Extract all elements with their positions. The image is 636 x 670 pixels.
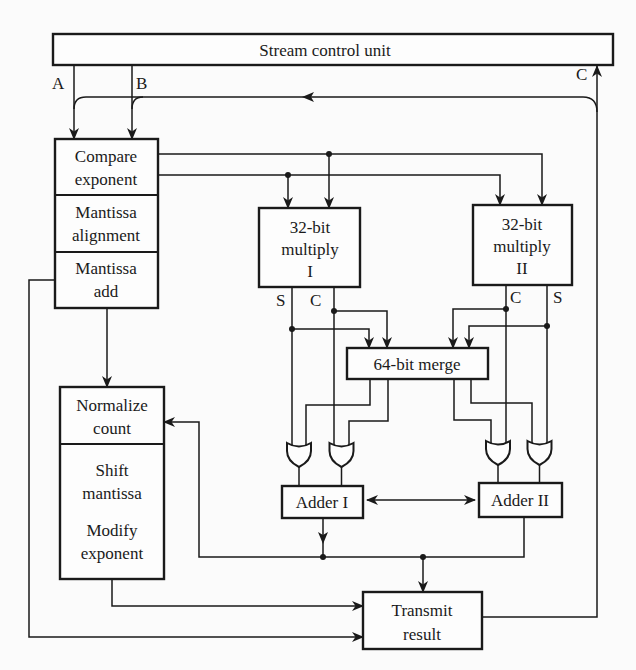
merge-output-wires xyxy=(306,379,532,446)
compare-stage-3-line2: add xyxy=(94,282,119,301)
multiplier-2-line2: multiply xyxy=(493,237,551,256)
signal-b-label: B xyxy=(136,74,147,93)
or-gate-3 xyxy=(486,441,510,483)
multiplier-2: 32-bit multiply II C S xyxy=(473,205,572,307)
multiplier-2-carry-label: C xyxy=(510,288,521,307)
merge-unit: 64-bit merge xyxy=(347,348,488,379)
normalize-stage-1-line2: count xyxy=(93,419,131,438)
multiplier-1: 32-bit multiply I S C xyxy=(259,208,360,310)
pipeline-diagram: Stream control unit A B C Compare expone… xyxy=(0,0,636,670)
merge-label: 64-bit merge xyxy=(373,355,460,374)
stream-control-unit: Stream control unit xyxy=(53,34,613,65)
signal-a: A xyxy=(52,65,74,139)
multiplier-1-line2: multiply xyxy=(281,240,339,259)
multiplier-1-line1: 32-bit xyxy=(290,218,331,237)
normalize-stage-2-line1: Shift xyxy=(95,461,128,480)
adder-2-label: Adder II xyxy=(491,491,549,510)
signal-b: B xyxy=(132,65,147,139)
normalize-unit: Normalize count Shift mantissa Modify ex… xyxy=(60,387,164,579)
transmit-line2: result xyxy=(403,625,441,644)
adder-1-label: Adder I xyxy=(296,493,349,512)
or-gate-1 xyxy=(287,443,311,486)
or-gate-2 xyxy=(330,443,354,486)
transmit-line1: Transmit xyxy=(392,601,453,620)
compare-stage-2-line2: alignment xyxy=(72,226,140,245)
compare-stage-1-line2: exponent xyxy=(75,170,138,189)
normalize-stage-1-line1: Normalize xyxy=(76,396,148,415)
adder-2: Adder II xyxy=(479,483,562,517)
multiplier-1-carry-label: C xyxy=(310,291,321,310)
or-gate-4 xyxy=(528,441,552,483)
normalize-stage-2-line2: mantissa xyxy=(82,484,142,503)
normalize-stage-2-line3: Modify xyxy=(87,521,139,540)
transmit-unit: Transmit result xyxy=(363,592,482,649)
multiplier-2-line3: II xyxy=(516,259,528,278)
adder-1: Adder I xyxy=(282,486,363,518)
multiplier-1-sum-label: S xyxy=(276,291,285,310)
normalize-to-transmit xyxy=(112,579,363,606)
compare-stage-3-line1: Mantissa xyxy=(75,259,137,278)
signal-a-label: A xyxy=(52,74,65,93)
multiplier-2-sum-label: S xyxy=(553,288,562,307)
multiplier-1-line3: I xyxy=(307,262,313,281)
compare-to-multipliers xyxy=(158,151,542,208)
signal-c-label: C xyxy=(576,65,587,84)
multiplier-2-line1: 32-bit xyxy=(502,215,543,234)
normalize-stage-2-line4: exponent xyxy=(81,544,144,563)
compare-stage-2-line1: Mantissa xyxy=(75,203,137,222)
compare-stage-1-line1: Compare xyxy=(75,147,137,166)
stream-control-label: Stream control unit xyxy=(259,41,391,60)
compare-unit: Compare exponent Mantissa alignment Mant… xyxy=(55,139,158,308)
